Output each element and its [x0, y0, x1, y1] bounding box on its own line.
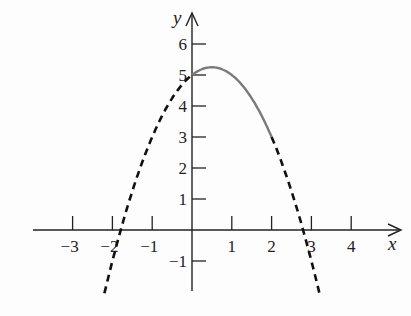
- x-tick-label: 1: [228, 237, 237, 256]
- x-axis-label: x: [387, 233, 397, 254]
- graph-figure: −3−2−11234−1123456 x y: [0, 0, 411, 316]
- dashed-curve: [272, 137, 320, 293]
- y-tick-label: 6: [179, 35, 188, 54]
- ticks: −3−2−11234−1123456: [61, 35, 356, 271]
- y-tick-label: 4: [179, 97, 188, 116]
- x-tick-label: 4: [347, 237, 356, 256]
- y-axis-label: y: [171, 7, 182, 28]
- y-tick-label: 3: [179, 128, 188, 147]
- solid-curve: [192, 67, 272, 137]
- y-tick-label: 2: [179, 159, 188, 178]
- curves: [104, 67, 319, 293]
- x-tick-label: 2: [267, 237, 276, 256]
- y-tick-label: 1: [179, 190, 188, 209]
- plot-area: −3−2−11234−1123456 x y: [0, 0, 411, 316]
- x-tick-label: −3: [61, 237, 79, 256]
- axes: [33, 13, 401, 291]
- x-tick-label: −1: [140, 237, 158, 256]
- y-tick-label: −1: [169, 252, 187, 271]
